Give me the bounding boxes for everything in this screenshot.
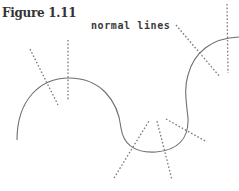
normal-line-6 (176, 25, 220, 77)
normal-line-2 (30, 49, 58, 105)
curve-diagram (0, 0, 239, 191)
normal-line-3 (114, 121, 149, 178)
normal-lines-group (30, 4, 228, 180)
curve (17, 37, 239, 152)
